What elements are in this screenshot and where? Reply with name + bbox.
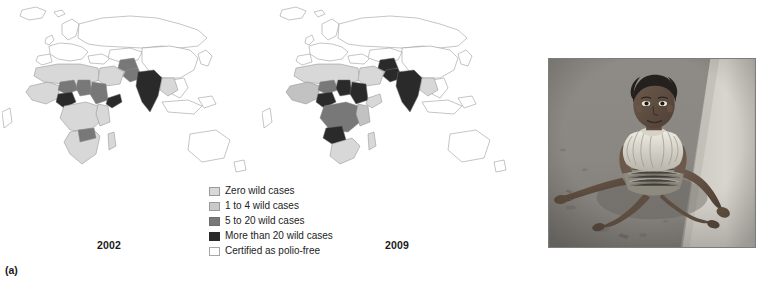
legend-label-more-than-20: More than 20 wild cases: [225, 231, 333, 241]
panel-b-photograph: (b): [548, 58, 756, 248]
panel-tag-a: (a): [5, 264, 18, 276]
legend-item-zero: Zero wild cases: [209, 184, 379, 199]
polio-patient-photo: [548, 58, 756, 248]
legend-swatch-5-to-20: [209, 217, 220, 226]
legend-swatch-1-to-4: [209, 202, 220, 211]
legend-item-certified-polio-free: Certified as polio-free: [209, 244, 379, 259]
polio-figure: 2002 2009 Zero wild cases 1 to 4 wild ca…: [0, 0, 761, 289]
legend-swatch-zero: [209, 187, 220, 196]
legend-swatch-certified-polio-free: [209, 247, 220, 256]
legend-item-1-to-4: 1 to 4 wild cases: [209, 199, 379, 214]
map-year-label-2009: 2009: [385, 239, 409, 251]
legend-item-more-than-20: More than 20 wild cases: [209, 229, 379, 244]
panel-a-maps: 2002 2009 Zero wild cases 1 to 4 wild ca…: [0, 0, 540, 289]
map-legend: Zero wild cases 1 to 4 wild cases 5 to 2…: [209, 184, 379, 259]
legend-label-zero: Zero wild cases: [225, 186, 294, 196]
legend-label-certified-polio-free: Certified as polio-free: [225, 246, 320, 256]
legend-label-5-to-20: 5 to 20 wild cases: [225, 216, 305, 226]
legend-item-5-to-20: 5 to 20 wild cases: [209, 214, 379, 229]
world-map-2002: [2, 2, 255, 192]
legend-swatch-more-than-20: [209, 232, 220, 241]
world-map-2009: [262, 2, 515, 192]
legend-label-1-to-4: 1 to 4 wild cases: [225, 201, 299, 211]
map-year-label-2002: 2002: [97, 239, 121, 251]
